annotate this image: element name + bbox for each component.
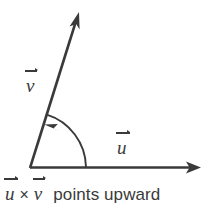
cross-product-symbol: × <box>20 187 29 203</box>
vector-arrow-overbar-icon <box>116 132 130 134</box>
angle-arc-u-to-v <box>44 115 86 167</box>
vector-v-label: v <box>26 76 34 95</box>
caption-u-glyph: u <box>5 184 15 203</box>
vector-u-glyph: u <box>117 138 127 157</box>
vector-u-letter: u <box>117 137 127 158</box>
caption-v-glyph: v <box>34 184 42 203</box>
angle-arc-path <box>47 115 86 167</box>
caption-v-letter: v <box>34 183 42 204</box>
vector-arrow-overbar-icon <box>33 178 45 180</box>
caption-text: points upward <box>53 186 160 203</box>
vector-v-shaft <box>30 21 76 168</box>
figure-caption: u × v points upward <box>5 184 160 203</box>
caption-u-letter: u <box>5 183 15 204</box>
vector-cross-product-figure: v u u × v points upward <box>0 0 219 218</box>
caption-vector-v: v <box>34 184 42 203</box>
caption-vector-u: u <box>5 184 15 203</box>
angle-arc-arrowhead <box>44 124 60 131</box>
vector-arrow-overbar-icon <box>25 70 37 72</box>
vector-v-arrow <box>30 12 80 168</box>
vector-u-arrow <box>30 162 201 174</box>
vector-v-letter: v <box>26 75 34 96</box>
vector-arrow-overbar-icon <box>4 178 18 180</box>
vector-v-glyph: v <box>26 76 34 95</box>
vector-u-label: u <box>117 138 127 157</box>
